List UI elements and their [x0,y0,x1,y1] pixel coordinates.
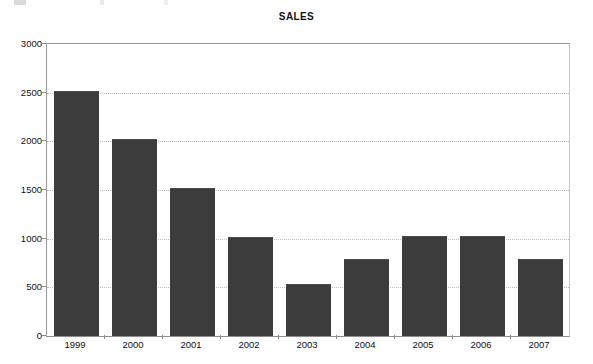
y-axis-tick-label: 0 [2,330,42,341]
bar-1999[interactable] [54,91,99,336]
x-axis-tick-mark [394,335,395,339]
x-axis-tick-label-2004: 2004 [336,339,394,350]
y-axis-tick-label: 500 [2,281,42,292]
x-axis-tick-label-2007: 2007 [510,339,568,350]
x-axis-tick-label-2000: 2000 [104,339,162,350]
y-axis-tick-label: 1500 [2,184,42,195]
x-axis-tick-mark [452,335,453,339]
cropped-text-remnant [14,0,264,5]
x-axis-tick-mark [336,335,337,339]
bar-2004[interactable] [344,259,389,336]
bar-2003[interactable] [286,284,331,336]
x-axis-tick-label-2002: 2002 [220,339,278,350]
y-axis-tick-labels: 050010001500200025003000 [0,43,42,335]
bars-layer [47,44,569,336]
x-axis-tick-label-2005: 2005 [394,339,452,350]
y-axis-tick-label: 2000 [2,135,42,146]
x-axis-tick-mark [510,335,511,339]
bar-2005[interactable] [402,236,447,336]
bar-2007[interactable] [518,259,563,336]
x-axis-tick-label-2006: 2006 [452,339,510,350]
x-axis-tick-mark [220,335,221,339]
x-axis-tick-label-2001: 2001 [162,339,220,350]
y-axis-tick-label: 1000 [2,232,42,243]
y-axis-tick-label: 3000 [2,38,42,49]
x-axis-tick-mark [104,335,105,339]
x-axis-tick-mark [278,335,279,339]
sales-bar-chart: SALES 050010001500200025003000 199920002… [0,0,593,364]
plot-area [46,43,570,337]
bar-2000[interactable] [112,139,157,336]
x-axis-tick-mark [162,335,163,339]
bar-2001[interactable] [170,188,215,336]
chart-title: SALES [0,11,593,22]
x-axis-tick-label-2003: 2003 [278,339,336,350]
bar-2006[interactable] [460,236,505,336]
x-axis-tick-labels: 199920002001200220032004200520062007 [46,339,568,357]
x-axis-tick-label-1999: 1999 [46,339,104,350]
bar-2002[interactable] [228,237,273,336]
y-axis-tick-label: 2500 [2,86,42,97]
